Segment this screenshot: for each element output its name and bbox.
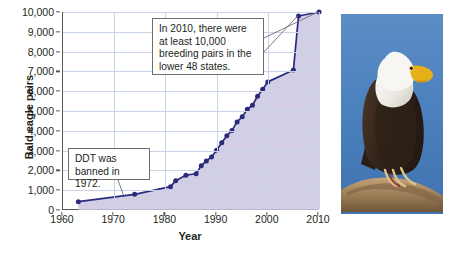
data-point-marker <box>76 199 81 204</box>
y-tick-label: 9,000 <box>28 27 54 38</box>
x-tick-mark <box>61 212 62 216</box>
x-axis-ticks: 196019701980199020002010 <box>62 212 318 228</box>
y-axis-title: Bald eagle pairs <box>23 52 35 182</box>
y-tick-mark <box>56 170 60 171</box>
data-point-marker <box>199 163 204 168</box>
gridline-horizontal <box>63 111 318 112</box>
annotation-callout-2010: In 2010, there were at least 10,000 bree… <box>152 18 264 75</box>
y-tick-mark <box>56 190 60 191</box>
data-point-marker <box>173 178 178 183</box>
x-tick-mark <box>215 212 216 216</box>
y-tick-mark <box>56 150 60 151</box>
y-tick-mark <box>56 130 60 131</box>
y-tick-mark <box>56 11 60 12</box>
data-point-marker <box>168 184 173 189</box>
data-point-marker <box>132 192 137 197</box>
x-tick-mark <box>266 212 267 216</box>
data-point-marker <box>250 103 255 108</box>
data-point-marker <box>240 114 245 119</box>
gridline-vertical <box>319 12 320 209</box>
y-tick-label: 1,000 <box>28 185 54 196</box>
data-point-marker <box>224 133 229 138</box>
y-tick-label: 10,000 <box>22 7 54 18</box>
data-point-marker <box>194 171 199 176</box>
gridline-horizontal <box>63 12 318 13</box>
y-tick-mark <box>56 91 60 92</box>
data-point-marker <box>183 173 188 178</box>
x-tick-mark <box>113 212 114 216</box>
bald-eagle-population-figure: 01,0002,0003,0004,0005,0006,0007,0008,00… <box>0 0 452 263</box>
data-point-marker <box>235 119 240 124</box>
gridline-horizontal <box>63 190 318 191</box>
y-tick-mark <box>56 51 60 52</box>
data-point-marker <box>255 94 260 99</box>
x-axis-title: Year <box>62 230 318 242</box>
bald-eagle-photo <box>341 14 443 214</box>
x-tick-mark <box>317 212 318 216</box>
annotation-callout-ddt: DDT was banned in 1972. <box>68 148 150 180</box>
y-tick-mark <box>56 110 60 111</box>
data-point-marker <box>219 140 224 145</box>
bald-eagle-illustration <box>341 14 443 214</box>
gridline-horizontal <box>63 91 318 92</box>
gridline-horizontal <box>63 131 318 132</box>
x-tick-mark <box>164 212 165 216</box>
y-tick-mark <box>56 209 60 210</box>
data-point-marker <box>296 13 301 18</box>
y-tick-mark <box>56 71 60 72</box>
data-point-marker <box>204 158 209 163</box>
y-tick-mark <box>56 31 60 32</box>
data-point-marker <box>209 154 214 159</box>
